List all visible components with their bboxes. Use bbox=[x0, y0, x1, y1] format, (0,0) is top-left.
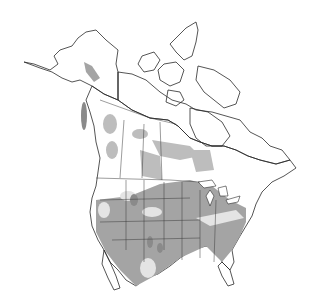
alaska-range-dark bbox=[84, 62, 100, 82]
arctic-islands bbox=[138, 22, 240, 108]
alaska bbox=[24, 30, 118, 100]
range-map bbox=[0, 0, 325, 303]
range-medium-zones bbox=[103, 114, 214, 180]
florida bbox=[218, 262, 234, 286]
